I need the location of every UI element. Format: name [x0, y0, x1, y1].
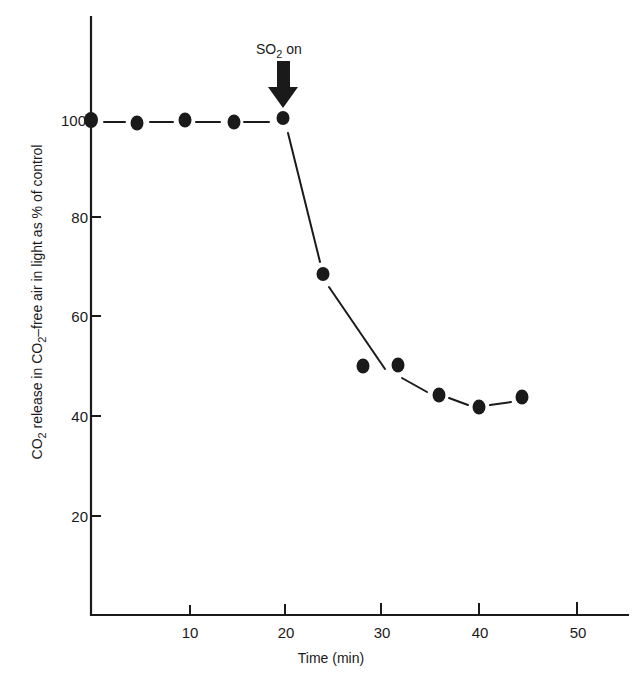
x-axis-title: Time (min)	[298, 650, 364, 666]
data-point	[228, 115, 241, 130]
series-line	[104, 122, 511, 405]
data-point	[392, 358, 405, 373]
y-tick-label: 100	[61, 112, 86, 129]
x-tick-label: 30	[374, 624, 391, 641]
x-tick-label: 10	[182, 624, 199, 641]
data-point	[357, 359, 370, 374]
y-ticks	[91, 217, 101, 516]
chart: 20 40 60 80 100 10 20 30 40 50 Time (min…	[0, 0, 640, 677]
y-tick-label: 20	[71, 508, 88, 525]
data-point	[473, 400, 486, 415]
data-point	[179, 113, 192, 128]
y-tick-label: 80	[71, 209, 88, 226]
x-tick-labels: 10 20 30 40 50	[182, 624, 587, 641]
x-tick-label: 50	[570, 624, 587, 641]
data-point	[84, 112, 98, 128]
y-axis-title: CO2 release in CO2–free air in light as …	[29, 145, 48, 460]
y-tick-label: 40	[71, 408, 88, 425]
y-tick-labels: 20 40 60 80 100	[61, 112, 88, 525]
y-tick-label: 60	[71, 308, 88, 325]
x-tick-label: 20	[278, 624, 295, 641]
series-points	[84, 111, 529, 415]
x-tick-label: 40	[472, 624, 489, 641]
data-point	[433, 388, 446, 403]
arrow-down-icon	[268, 61, 298, 108]
data-point	[516, 390, 529, 405]
annotation-so2-on: SO2 on	[256, 41, 302, 60]
data-point	[317, 267, 330, 281]
data-point	[277, 111, 290, 125]
data-point	[131, 116, 144, 131]
x-ticks	[190, 602, 577, 615]
